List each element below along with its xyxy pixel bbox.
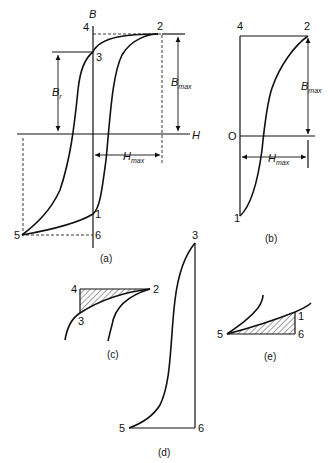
bmax-label: Bmax [171, 76, 192, 90]
h-axis-label: H [192, 129, 200, 141]
point-4-label: 4 [83, 21, 89, 33]
hysteresis-figure: B H 4 2 3 1 5 6 Br Bmax Hmax (a) 4 2 O 1… [0, 0, 328, 463]
point-3-label: 3 [96, 51, 102, 63]
b-axis-label: B [89, 8, 96, 20]
point-3-label: 3 [78, 315, 84, 327]
point-2-label: 2 [304, 20, 310, 32]
point-6-label: 6 [95, 229, 101, 241]
magnetization-curve [240, 36, 308, 216]
caption-c: (c) [107, 349, 119, 360]
panel-a: B H 4 2 3 1 5 6 Br Bmax Hmax (a) [14, 8, 200, 264]
hmax-label: Hmax [268, 152, 290, 166]
caption-d: (d) [158, 447, 170, 458]
point-2-label: 2 [157, 20, 163, 32]
bmax-label: Bmax [301, 80, 322, 94]
point-4-label: 4 [237, 20, 243, 32]
hmax-label: Hmax [123, 150, 145, 164]
point-1-label: 1 [95, 208, 101, 220]
caption-e: (e) [264, 351, 276, 362]
panel-e: 5 1 6 (e) [217, 295, 311, 362]
br-label: Br [52, 86, 62, 100]
point-3-label: 3 [192, 229, 198, 241]
origin-label: O [228, 130, 237, 142]
magnetization-curve [129, 243, 195, 428]
point-2-label: 2 [153, 283, 159, 295]
caption-a: (a) [100, 253, 112, 264]
guide-bottom-left [23, 138, 93, 235]
point-1-label: 1 [298, 310, 304, 322]
point-4-label: 4 [71, 283, 77, 295]
panel-c: 4 2 3 (c) [65, 283, 159, 360]
point-6-label: 6 [198, 422, 204, 434]
panel-d: 3 5 6 (d) [119, 229, 204, 458]
point-5-label: 5 [119, 422, 125, 434]
point-6-label: 6 [298, 328, 304, 340]
guide-top-right [93, 34, 162, 165]
point-5-label: 5 [14, 229, 20, 241]
panel-b: 4 2 O 1 Bmax Hmax (b) [228, 20, 322, 244]
point-1-label: 1 [234, 212, 240, 224]
caption-b: (b) [265, 233, 277, 244]
point-5-label: 5 [217, 328, 223, 340]
